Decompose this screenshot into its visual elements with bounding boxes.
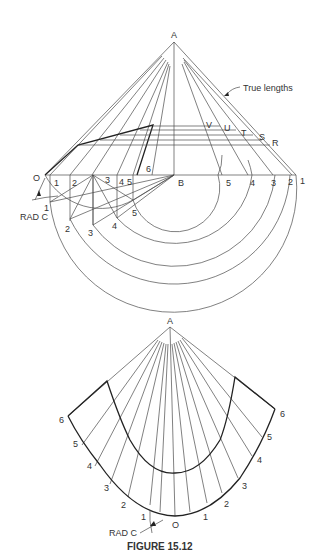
arc-point-5: 5: [132, 208, 137, 218]
base-right-2: 2: [288, 177, 293, 187]
origin-label-dev: O: [172, 520, 179, 530]
dev-right-2: 2: [224, 499, 229, 509]
base-left-2: 2: [72, 178, 77, 188]
point-U: U: [224, 123, 231, 133]
arc-point-2: 2: [65, 224, 70, 234]
dev-left-3: 3: [104, 483, 109, 493]
base-left-3: 3: [105, 175, 110, 185]
dev-right-5: 5: [267, 432, 272, 442]
center-label-B: B: [178, 178, 184, 188]
apex-label-top: A: [171, 30, 177, 40]
arc-point-1: 1: [44, 203, 49, 213]
arc-point-3: 3: [88, 228, 93, 238]
origin-label-top: O: [33, 173, 40, 183]
dev-left-4: 4: [87, 461, 92, 471]
dev-left-6: 6: [59, 415, 64, 425]
base-right-5: 5: [226, 178, 231, 188]
base-right-1: 1: [300, 176, 305, 186]
apex-label-dev: A: [167, 316, 173, 326]
point-T: T: [241, 128, 247, 138]
base-left-6: 6: [146, 164, 151, 174]
base-left-5: 5: [127, 177, 132, 187]
radius-label-dev: RAD C: [109, 528, 138, 538]
point-V: V: [206, 120, 212, 130]
base-left-4: 4: [119, 177, 124, 187]
point-R: R: [272, 138, 279, 148]
figure-caption: FIGURE 15.12: [127, 541, 193, 552]
arc-point-4: 4: [112, 221, 117, 231]
base-right-3: 3: [271, 178, 276, 188]
base-left-1: 1: [54, 178, 59, 188]
dev-right-1: 1: [203, 512, 208, 522]
dev-right-6: 6: [280, 409, 285, 419]
base-right-4: 4: [250, 178, 255, 188]
radius-label-top: RAD C: [20, 212, 49, 222]
figure-15-12: A True lengths V U T S R O B 1 2 3 4 5 6…: [0, 0, 321, 554]
dev-left-2: 2: [121, 500, 126, 510]
point-S: S: [259, 132, 265, 142]
dev-left-5: 5: [73, 439, 78, 449]
development-view: [68, 327, 275, 533]
dev-right-3: 3: [242, 481, 247, 491]
true-lengths-annotation: True lengths: [243, 83, 293, 93]
dev-right-4: 4: [257, 455, 262, 465]
dev-left-1: 1: [141, 512, 146, 522]
